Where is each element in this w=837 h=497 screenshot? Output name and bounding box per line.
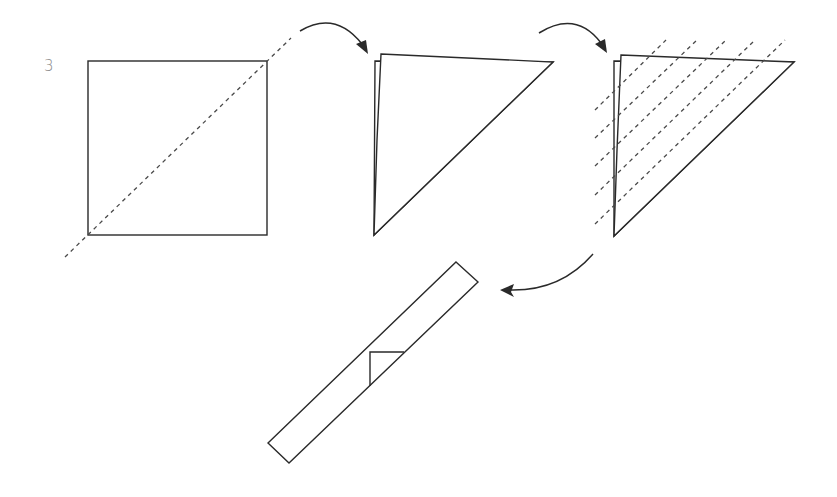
arrow-1-icon xyxy=(300,23,368,54)
folded-strip xyxy=(268,262,478,463)
stage-square xyxy=(65,38,291,257)
folding-diagram xyxy=(0,0,837,497)
pleat-triangle-front-layer xyxy=(614,55,794,236)
arrow-3-icon xyxy=(500,254,593,297)
stage-strip xyxy=(268,262,478,463)
square-sheet xyxy=(88,61,267,235)
stage-triangle xyxy=(374,54,553,235)
stage-triangle-pleats xyxy=(595,40,794,236)
arrow-2-icon xyxy=(539,24,607,53)
triangle-front-layer xyxy=(374,54,553,235)
